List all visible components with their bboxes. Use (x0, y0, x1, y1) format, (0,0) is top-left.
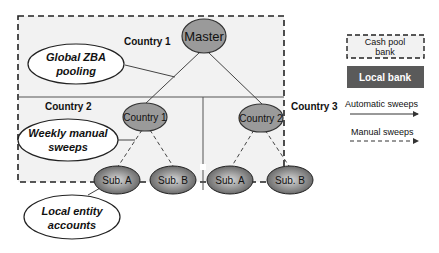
node-sub-a-2-label: Sub. A (215, 175, 245, 186)
legend-automatic-sweeps-label: Automatic sweeps (345, 99, 419, 109)
legend-manual-sweeps-label: Manual sweeps (351, 127, 414, 137)
callout-weekly-manual-line1: Weekly manual (28, 127, 108, 139)
callout-global-zba-line1: Global ZBA (46, 51, 106, 63)
region-label-country1: Country 1 (124, 36, 171, 47)
node-sub-a-1-label: Sub. A (102, 175, 132, 186)
node-country2-label: Country 2 (239, 113, 283, 124)
callout-weekly-manual (18, 119, 118, 161)
callout-global-zba-line2: pooling (55, 65, 96, 77)
legend-local-bank-label: Local bank (359, 72, 412, 83)
region-label-country2: Country 2 (45, 101, 92, 112)
callout-local-entity (24, 195, 120, 239)
legend-cash-pool-bank-line1: Cash pool (365, 37, 406, 47)
callout-global-zba (28, 44, 124, 84)
cash-pool-diagram: Country 1 Country 2 Country 3 Master Cou… (0, 0, 439, 253)
legend-cash-pool-bank-line2: bank (375, 47, 395, 57)
node-country1-label: Country 1 (123, 112, 167, 123)
callout-weekly-manual-line2: sweeps (48, 141, 88, 153)
region-label-country3: Country 3 (291, 101, 338, 112)
node-sub-b-1-label: Sub. B (158, 175, 188, 186)
callout-local-entity-line2: accounts (48, 219, 96, 231)
node-sub-b-2-label: Sub. B (275, 175, 305, 186)
callout-local-entity-line1: Local entity (41, 205, 103, 217)
node-master-label: Master (184, 29, 224, 44)
